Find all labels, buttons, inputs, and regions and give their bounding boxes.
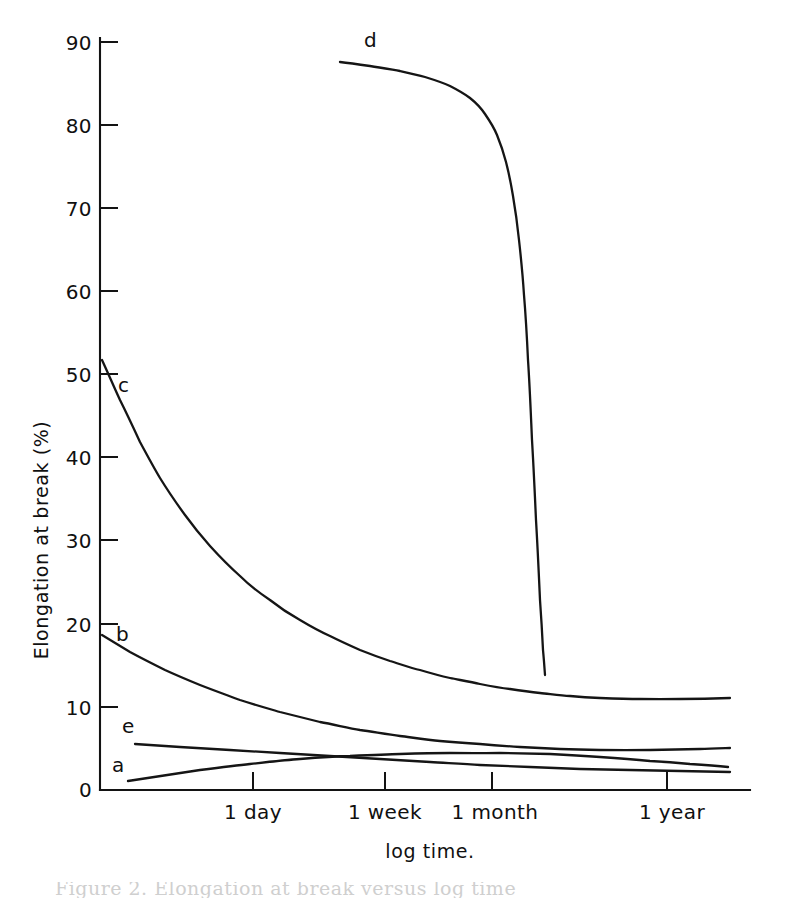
y-tick-label-70: 70 (66, 197, 92, 221)
curve-label-c: c (118, 373, 129, 397)
y-tick-labels: 90 80 70 60 50 40 30 20 10 0 (66, 31, 92, 802)
y-tick-label-50: 50 (66, 363, 92, 387)
x-axis-title: log time. (385, 840, 474, 862)
curve-label-a: a (112, 753, 124, 777)
y-tick-label-80: 80 (66, 114, 92, 138)
y-tick-label-10: 10 (66, 696, 92, 720)
curves-group (102, 62, 730, 781)
y-tick-label-30: 30 (66, 529, 92, 553)
figure-caption-strip: Figure 2. Elongation at break versus log… (0, 882, 785, 898)
y-tick-label-0: 0 (79, 778, 92, 802)
y-tick-label-90: 90 (66, 31, 92, 55)
x-tick-labels: 1 day 1 week 1 month 1 year (224, 800, 705, 824)
curve-b (102, 635, 730, 750)
x-tick-label-1-month: 1 month (452, 800, 539, 824)
curve-a (128, 753, 728, 781)
x-tick-marks (253, 772, 667, 790)
curve-label-d: d (364, 28, 377, 52)
curve-d (340, 62, 545, 675)
curve-label-e: e (122, 714, 134, 738)
x-tick-label-1-week: 1 week (348, 800, 422, 824)
curve-c (102, 360, 730, 699)
y-tick-label-40: 40 (66, 446, 92, 470)
x-tick-label-1-year: 1 year (639, 800, 705, 824)
y-axis-title: Elongation at break (%) (30, 421, 52, 660)
figure-root: 90 80 70 60 50 40 30 20 10 0 1 day 1 wee… (0, 0, 785, 898)
y-tick-label-20: 20 (66, 613, 92, 637)
curve-label-b: b (116, 622, 129, 646)
x-tick-label-1-day: 1 day (224, 800, 282, 824)
figure-caption: Figure 2. Elongation at break versus log… (55, 882, 516, 898)
y-tick-label-60: 60 (66, 280, 92, 304)
chart-canvas: 90 80 70 60 50 40 30 20 10 0 1 day 1 wee… (0, 0, 785, 898)
curve-labels-group: a b c d e (112, 28, 377, 777)
axes-group (100, 38, 750, 790)
